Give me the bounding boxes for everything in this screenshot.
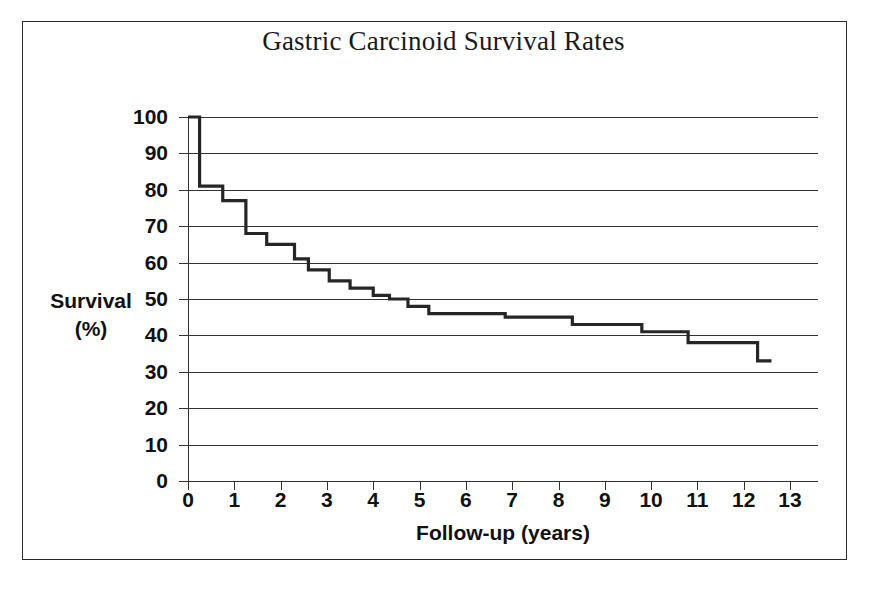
y-axis-title-line1: Survival [36,287,146,315]
y-axis-title-line2: (%) [36,315,146,343]
xtick-label-6: 6 [446,489,486,510]
xtick-label-10: 10 [631,489,671,510]
x-axis-title: Follow-up (years) [188,521,818,545]
gridline-10 [188,445,818,446]
plot-area: 100 90 80 70 60 50 40 30 20 10 0 Surviva… [0,0,887,597]
ytick-mark-100 [179,117,188,118]
gridline-30 [188,372,818,373]
ytick-label-70: 70 [122,215,168,236]
ytick-mark-70 [179,226,188,227]
ytick-mark-30 [179,372,188,373]
ytick-mark-60 [179,263,188,264]
gridline-90 [188,153,818,154]
ytick-label-100: 100 [122,106,168,127]
ytick-mark-40 [179,335,188,336]
xtick-label-8: 8 [539,489,579,510]
xtick-label-11: 11 [677,489,717,510]
ytick-label-0: 0 [122,470,168,491]
xtick-label-1: 1 [214,489,254,510]
ytick-mark-20 [179,408,188,409]
ytick-mark-80 [179,190,188,191]
ytick-mark-10 [179,445,188,446]
ytick-label-90: 90 [122,142,168,163]
ytick-mark-50 [179,299,188,300]
ytick-label-80: 80 [122,179,168,200]
xtick-label-9: 9 [585,489,625,510]
ytick-label-20: 20 [122,397,168,418]
gridline-100 [188,117,818,118]
ytick-label-30: 30 [122,361,168,382]
gridline-40 [188,335,818,336]
xtick-label-0: 0 [168,489,208,510]
xtick-label-2: 2 [261,489,301,510]
xtick-label-4: 4 [353,489,393,510]
x-axis-line [188,481,818,482]
xtick-label-12: 12 [724,489,764,510]
gridline-50 [188,299,818,300]
gridline-70 [188,226,818,227]
xtick-label-3: 3 [307,489,347,510]
gridline-20 [188,408,818,409]
xtick-label-5: 5 [400,489,440,510]
y-axis-line [188,117,189,481]
ytick-label-10: 10 [122,434,168,455]
y-axis-title: Survival (%) [36,287,146,344]
ytick-label-60: 60 [122,252,168,273]
ytick-mark-0 [179,481,188,482]
ytick-mark-90 [179,153,188,154]
xtick-label-7: 7 [492,489,532,510]
xtick-label-13: 13 [770,489,810,510]
gridline-80 [188,190,818,191]
figure-page: Gastric Carcinoid Survival Rates 100 90 … [0,0,887,597]
gridline-60 [188,263,818,264]
